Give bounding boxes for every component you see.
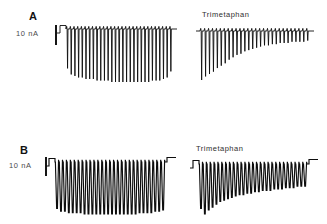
trace-line bbox=[46, 158, 176, 215]
panel-a-drug-label: Trimetaphan bbox=[202, 11, 249, 19]
trace-line bbox=[190, 160, 318, 215]
panel-b-letter: B bbox=[20, 145, 28, 156]
panel-a: A 10 nA Trimetaphan bbox=[0, 0, 327, 112]
panel-a-control-trace bbox=[57, 22, 177, 84]
panel-b-control-trace bbox=[46, 154, 176, 216]
trace-line bbox=[57, 26, 177, 83]
panel-a-letter: A bbox=[29, 11, 37, 22]
panel-b: B 10 nA Trimetaphan bbox=[0, 112, 327, 224]
panel-b-scale-bar-label: 10 nA bbox=[9, 162, 32, 170]
figure-root: A 10 nA Trimetaphan B 10 nA Trimetaphan bbox=[0, 0, 327, 224]
panel-b-drug-label: Trimetaphan bbox=[196, 145, 243, 153]
trace-line bbox=[196, 28, 314, 80]
panel-a-trimetaphan-trace bbox=[196, 24, 314, 82]
panel-a-scale-bar-label: 10 nA bbox=[16, 30, 39, 38]
panel-b-trimetaphan-trace bbox=[190, 156, 318, 216]
